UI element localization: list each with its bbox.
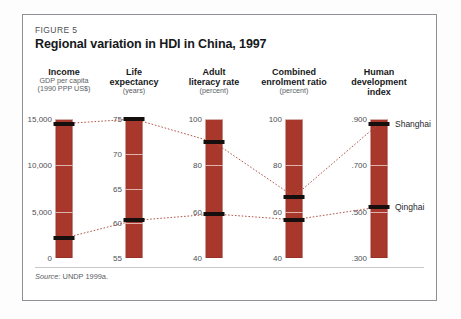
value-marker-qinghai (284, 218, 305, 222)
axis-header-line: index (351, 87, 407, 97)
connector-shanghai (64, 119, 379, 197)
axis-header-0: IncomeGDP per capita(1990 PPP US$) (37, 67, 90, 93)
source-text: UNDP 1999a. (63, 272, 108, 281)
axis-bar-0 (56, 119, 73, 258)
connector-qinghai (64, 207, 379, 238)
axis-gridline (56, 212, 73, 213)
axis-header-line: development (351, 77, 407, 87)
value-marker-shanghai (284, 195, 305, 199)
axis-tick-label: 0 (48, 254, 52, 263)
value-marker-qinghai (204, 212, 225, 216)
axis-gridline (56, 258, 73, 259)
axis-bar-1 (126, 119, 143, 258)
axis-bar-2 (206, 119, 223, 258)
axis-header-line: Life (109, 67, 158, 77)
axis-header-line: Human (351, 67, 407, 77)
region-label-shanghai: Shanghai (395, 119, 431, 129)
axis-gridline (206, 119, 223, 120)
figure-screenshot: FIGURE 5 Regional variation in HDI in Ch… (0, 0, 461, 319)
source-note: Source: UNDP 1999a. (35, 272, 108, 281)
axis-tick-label: 40 (273, 254, 282, 263)
axis-header-1: Lifeexpectancy(years) (109, 67, 158, 95)
axis-header-line: (years) (109, 87, 158, 95)
axis-tick-label: .500 (351, 207, 367, 216)
figure-number: FIGURE 5 (35, 25, 77, 35)
axis-gridline (286, 258, 303, 259)
value-marker-qinghai (124, 218, 145, 222)
axis-gridline (56, 165, 73, 166)
figure-box: FIGURE 5 Regional variation in HDI in Ch… (22, 14, 437, 301)
source-divider (35, 267, 424, 268)
axis-gridline (371, 165, 388, 166)
axis-tick-label: 80 (193, 161, 202, 170)
axis-bar-3 (286, 119, 303, 258)
axis-header-line: (1990 PPP US$) (37, 85, 90, 93)
axis-header-line: (percent) (261, 87, 327, 95)
axis-header-line: (percent) (189, 87, 240, 95)
axis-tick-label: 60 (193, 207, 202, 216)
axis-gridline (286, 119, 303, 120)
axis-tick-label: 40 (193, 254, 202, 263)
axis-header-line: Combined (261, 67, 327, 77)
axis-header-2: Adultliteracy rate(percent) (189, 67, 240, 95)
axis-tick-label: 70 (113, 149, 122, 158)
axis-tick-label: 100 (189, 115, 202, 124)
axis-gridline (126, 189, 143, 190)
axis-gridline (126, 223, 143, 224)
axis-tick-label: 60 (273, 207, 282, 216)
parallel-axis-plot: 05,00010,00015,0005560657075406080100406… (23, 15, 438, 302)
axis-gridline (206, 212, 223, 213)
value-marker-shanghai (204, 140, 225, 144)
value-marker-shanghai (369, 122, 390, 126)
value-marker-qinghai (369, 205, 390, 209)
axis-gridline (371, 212, 388, 213)
axis-gridline (371, 258, 388, 259)
axis-gridline (206, 258, 223, 259)
axis-gridline (371, 119, 388, 120)
axis-header-line: Adult (189, 67, 240, 77)
axis-gridline (126, 119, 143, 120)
axis-gridline (206, 165, 223, 166)
axis-tick-label: .700 (351, 161, 367, 170)
axis-bar-4 (371, 119, 388, 258)
value-marker-shanghai (124, 117, 145, 121)
axis-header-3: Combinedenrolment ratio(percent) (261, 67, 327, 95)
axis-tick-label: 10,000 (28, 161, 52, 170)
axis-tick-label: 5,000 (32, 207, 52, 216)
source-prefix: Source: (35, 272, 60, 281)
series-connectors (23, 15, 438, 302)
figure-title: Regional variation in HDI in China, 1997 (35, 37, 266, 51)
axis-gridline (286, 212, 303, 213)
axis-tick-label: 55 (113, 254, 122, 263)
axis-gridline (56, 119, 73, 120)
axis-tick-label: 80 (273, 161, 282, 170)
axis-gridline (286, 165, 303, 166)
axis-tick-label: .300 (351, 254, 367, 263)
axis-tick-label: 60 (113, 219, 122, 228)
value-marker-qinghai (54, 236, 75, 240)
axis-tick-label: 65 (113, 184, 122, 193)
region-label-qinghai: Qinghai (395, 202, 424, 212)
value-marker-shanghai (54, 122, 75, 126)
axis-tick-label: 75 (113, 115, 122, 124)
axis-gridline (126, 154, 143, 155)
axis-gridline (126, 258, 143, 259)
axis-tick-label: .900 (351, 115, 367, 124)
axis-tick-label: 15,000 (28, 115, 52, 124)
axis-header-4: Humandevelopmentindex (351, 67, 407, 97)
axis-tick-label: 100 (269, 115, 282, 124)
